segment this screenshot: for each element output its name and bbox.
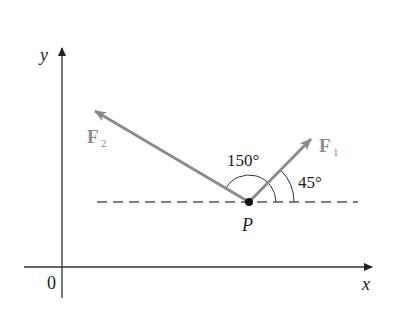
svg-text:F: F	[87, 126, 99, 147]
vector-f1	[249, 139, 311, 202]
point-p-dot	[245, 198, 253, 206]
angle-arc-45	[281, 170, 294, 202]
x-axis-label: x	[361, 274, 370, 294]
force-diagram: y x 0 P 150° 45° F 1 F 2	[0, 0, 397, 313]
vector-f2	[95, 111, 249, 202]
svg-text:1: 1	[333, 146, 339, 158]
point-p-label: P	[241, 215, 253, 235]
angle-label-45: 45°	[298, 173, 322, 192]
vector-f1-label: F 1	[319, 135, 339, 158]
origin-label: 0	[47, 273, 56, 293]
vector-f2-label: F 2	[87, 126, 107, 149]
angle-arc-150	[226, 175, 276, 202]
svg-text:2: 2	[101, 137, 107, 149]
y-axis-label: y	[38, 45, 48, 65]
angle-label-150: 150°	[227, 151, 259, 170]
svg-text:F: F	[319, 135, 331, 156]
